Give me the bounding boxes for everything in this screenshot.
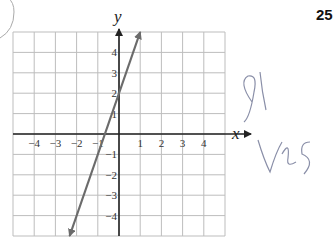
svg-text:1: 1 <box>137 137 143 149</box>
svg-text:4: 4 <box>201 137 207 149</box>
problem-number: 25 <box>316 6 333 23</box>
svg-text:−4: −4 <box>105 210 117 222</box>
svg-text:−4: −4 <box>28 137 40 149</box>
svg-text:−3: −3 <box>105 189 117 201</box>
svg-text:3: 3 <box>112 67 118 79</box>
axes <box>13 29 251 236</box>
handwritten-note <box>230 62 330 182</box>
svg-text:3: 3 <box>180 137 186 149</box>
svg-text:2: 2 <box>159 137 165 149</box>
svg-text:2: 2 <box>112 87 118 99</box>
svg-text:−3: −3 <box>50 137 62 149</box>
y-axis-label: y <box>112 7 122 26</box>
svg-text:−1: −1 <box>105 148 117 160</box>
svg-text:4: 4 <box>112 46 118 58</box>
svg-text:−2: −2 <box>105 169 117 181</box>
svg-text:−2: −2 <box>71 137 83 149</box>
bracket-mark <box>0 0 14 38</box>
